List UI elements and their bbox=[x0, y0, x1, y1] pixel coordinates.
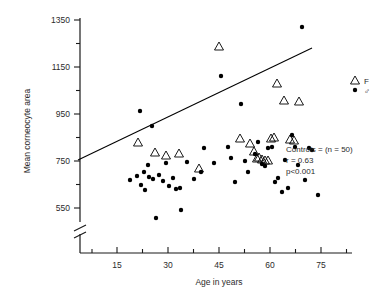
scatter-plot-figure: 1350 1150 950 750 550 15 30 45 60 bbox=[0, 0, 391, 293]
chart-legend: F ♂ bbox=[351, 76, 371, 96]
y-axis-title: Mean corneocyte area bbox=[22, 88, 32, 173]
series-female-points bbox=[134, 42, 304, 172]
legend-circle-icon bbox=[353, 88, 357, 92]
y-tick-label: 550 bbox=[56, 203, 70, 213]
x-axis-ticks: 15 30 45 60 75 bbox=[92, 247, 347, 270]
y-tick-label: 750 bbox=[56, 156, 70, 166]
y-tick-label: 1150 bbox=[52, 62, 71, 72]
x-axis-title: Age in years bbox=[195, 277, 242, 287]
legend-triangle-icon bbox=[351, 76, 360, 84]
p-value-label: p<0.001 bbox=[286, 167, 316, 176]
legend-label-male: ♂ bbox=[364, 87, 370, 96]
x-tick-label: 75 bbox=[316, 260, 326, 270]
legend-label-female: F bbox=[364, 77, 369, 86]
y-axis-ticks: 1350 1150 950 750 550 bbox=[51, 15, 80, 213]
regression-trendline bbox=[78, 48, 312, 160]
y-tick-label: 950 bbox=[56, 109, 70, 119]
statistics-annotation: Controls = (n = 50) r = 0.63 p<0.001 bbox=[286, 145, 353, 176]
chart-canvas: 1350 1150 950 750 550 15 30 45 60 bbox=[0, 0, 391, 293]
controls-label: Controls = (n = 50) bbox=[286, 145, 353, 154]
r-value-label: r = 0.63 bbox=[286, 156, 314, 165]
x-tick-label: 30 bbox=[163, 260, 173, 270]
y-tick-label: 1350 bbox=[51, 15, 70, 25]
x-tick-label: 15 bbox=[112, 260, 122, 270]
x-tick-label: 60 bbox=[265, 260, 275, 270]
x-tick-label: 45 bbox=[214, 260, 224, 270]
